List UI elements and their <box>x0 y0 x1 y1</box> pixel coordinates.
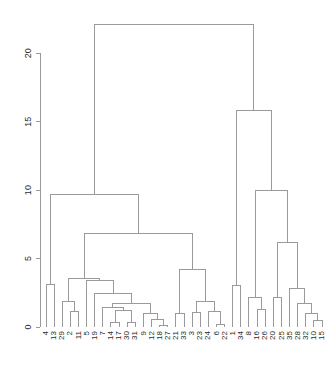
dendrogram-link <box>255 191 287 298</box>
y-tick-label: 0 <box>23 324 33 329</box>
dendrogram-links <box>46 24 322 327</box>
dendrogram-plot: 05101520 4132921151971417303191218272133… <box>0 0 332 392</box>
dendrogram-link <box>249 298 261 327</box>
dendrogram-link <box>192 313 200 327</box>
dendrogram-link <box>46 285 54 327</box>
dendrogram-link <box>237 111 271 286</box>
y-tick-label: 15 <box>23 117 33 127</box>
dendrogram-link <box>160 326 168 327</box>
dendrogram-link <box>290 289 305 327</box>
dendrogram-link <box>143 314 157 327</box>
dendrogram-link <box>196 302 214 313</box>
dendrogram-link <box>314 321 322 327</box>
dendrogram-link <box>115 311 131 323</box>
dendrogram-link <box>62 302 74 327</box>
dendrogram-link <box>306 313 318 327</box>
dendrogram-link <box>277 243 297 298</box>
dendrogram-link <box>87 280 114 327</box>
dendrogram-link <box>50 195 138 285</box>
dendrogram-link <box>233 286 241 327</box>
dendrogram-link <box>127 323 135 327</box>
dendrogram-link <box>70 311 78 327</box>
leaf-label: 15 <box>317 330 326 339</box>
y-axis: 05101520 <box>23 48 40 329</box>
dendrogram-link <box>94 24 254 194</box>
dendrogram-link <box>257 310 265 327</box>
dendrogram-link <box>111 322 119 327</box>
dendrogram-link <box>113 304 151 314</box>
y-axis-ticks: 05101520 <box>23 48 40 329</box>
dendrogram-link <box>298 303 312 327</box>
dendrogram-link <box>273 298 281 327</box>
y-tick-label: 5 <box>23 256 33 261</box>
dendrogram-link <box>84 234 193 278</box>
y-tick-label: 20 <box>23 48 33 58</box>
dendrogram-link <box>180 270 205 314</box>
dendrogram-link <box>176 313 184 327</box>
dendrogram-link <box>216 325 224 327</box>
y-tick-label: 10 <box>23 185 33 195</box>
leaf-label-group: 4132921151971417303191218272133323246221… <box>41 330 326 339</box>
